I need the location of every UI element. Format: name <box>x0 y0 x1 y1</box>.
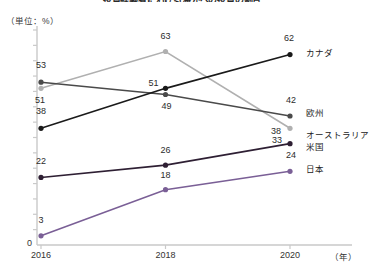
value-label-japan-2016: 3 <box>38 215 43 225</box>
x-tick-2016: 2016 <box>31 250 51 260</box>
x-tick-2020: 2020 <box>280 250 300 260</box>
value-label-canada-2016: 38 <box>36 106 46 116</box>
x-tick-2018: 2018 <box>155 250 175 260</box>
value-label-australia-2018: 63 <box>160 31 170 41</box>
series-label-europe: 欧州 <box>306 106 324 118</box>
series-label-japan: 日本 <box>306 162 324 174</box>
value-label-australia-2016: 51 <box>35 95 45 105</box>
value-label-canada-2020: 62 <box>284 33 294 43</box>
series-label-us: 米国 <box>306 140 324 152</box>
value-label-europe-2018: 49 <box>161 101 171 111</box>
series-label-australia: オーストラリア <box>306 128 369 140</box>
value-label-japan-2020: 24 <box>286 150 296 160</box>
y-axis-zero-label: 0 <box>27 238 32 248</box>
value-label-europe-2016: 53 <box>36 60 46 70</box>
value-label-us-2020: 33 <box>272 135 282 145</box>
series-label-canada: カナダ <box>306 46 333 58</box>
value-label-europe-2020: 42 <box>286 95 296 105</box>
x-axis-unit-label: （年） <box>330 250 357 262</box>
value-label-us-2018: 26 <box>160 145 170 155</box>
value-label-canada-2018: 51 <box>148 78 158 88</box>
value-label-us-2016: 22 <box>36 156 46 166</box>
value-label-japan-2018: 18 <box>160 170 170 180</box>
